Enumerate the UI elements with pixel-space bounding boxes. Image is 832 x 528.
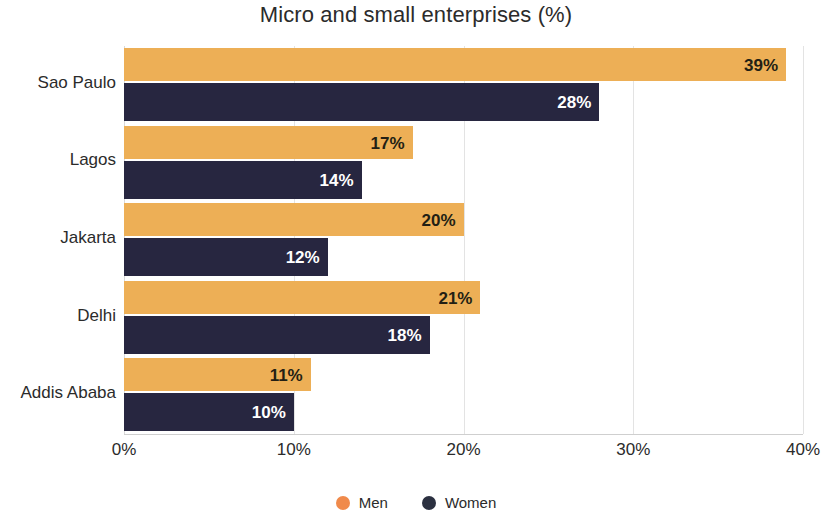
bar-chart: Micro and small enterprises (%) Sao Paul… [0, 0, 832, 528]
legend-swatch-men-icon [336, 496, 350, 510]
x-tick-label: 10% [277, 440, 311, 460]
bar-value-label: 28% [557, 94, 591, 111]
bar-men[interactable]: 20% [124, 203, 464, 236]
bar-value-label: 14% [320, 172, 354, 189]
chart-title: Micro and small enterprises (%) [0, 2, 832, 28]
x-tick-label: 40% [786, 440, 820, 460]
bar-value-label: 39% [744, 57, 778, 74]
bar-women[interactable]: 14% [124, 161, 362, 199]
legend-label: Women [445, 494, 496, 511]
legend-item-women[interactable]: Women [422, 494, 496, 511]
legend-swatch-women-icon [422, 496, 436, 510]
bar-women[interactable]: 12% [124, 238, 328, 276]
bar-women[interactable]: 28% [124, 83, 599, 121]
bar-men[interactable]: 17% [124, 126, 413, 159]
bar-men[interactable]: 39% [124, 48, 786, 81]
bar-value-label: 12% [286, 249, 320, 266]
x-axis: 0%10%20%30%40% [124, 434, 803, 464]
legend-item-men[interactable]: Men [336, 494, 388, 511]
bar-group: 39%28% [124, 48, 803, 126]
bar-value-label: 17% [371, 135, 405, 152]
x-tick-label: 0% [112, 440, 137, 460]
category-label-lagos: Lagos [0, 150, 116, 170]
category-label-sao-paulo: Sao Paulo [0, 73, 116, 93]
bar-group: 17%14% [124, 126, 803, 204]
category-label-delhi: Delhi [0, 306, 116, 326]
chart-legend: MenWomen [0, 494, 832, 511]
bar-value-label: 20% [421, 212, 455, 229]
bar-group: 20%12% [124, 203, 803, 281]
bar-men[interactable]: 11% [124, 358, 311, 391]
category-axis: Sao PauloLagosJakartaDelhiAddis Ababa [0, 46, 116, 434]
x-tick-label: 20% [446, 440, 480, 460]
gridline [803, 46, 804, 434]
bar-men[interactable]: 21% [124, 281, 480, 314]
bar-value-label: 10% [252, 404, 286, 421]
bar-value-label: 18% [388, 327, 422, 344]
x-tick-label: 30% [616, 440, 650, 460]
bar-group: 11%10% [124, 358, 803, 436]
plot-area: 39%28%17%14%20%12%21%18%11%10% [124, 46, 803, 434]
bar-group: 21%18% [124, 281, 803, 359]
x-axis-line [124, 434, 803, 435]
category-label-addis-ababa: Addis Ababa [0, 383, 116, 403]
legend-label: Men [359, 494, 388, 511]
bar-value-label: 11% [270, 367, 303, 384]
bar-value-label: 21% [438, 290, 472, 307]
bar-women[interactable]: 18% [124, 316, 430, 354]
category-label-jakarta: Jakarta [0, 228, 116, 248]
bar-women[interactable]: 10% [124, 393, 294, 431]
